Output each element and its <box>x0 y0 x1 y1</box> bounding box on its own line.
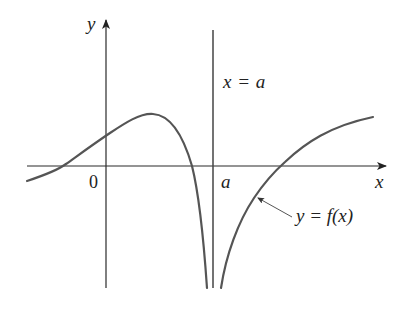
x-axis-label: x <box>375 172 383 191</box>
curve-right-branch <box>221 117 373 288</box>
a-tick-label: a <box>221 172 231 191</box>
diagram-canvas: y x 0 a x = a y = f(x) <box>0 0 407 311</box>
curve-label: y = f(x) <box>296 206 353 225</box>
graph-svg <box>0 0 407 311</box>
origin-label: 0 <box>89 173 98 191</box>
curve-left-branch <box>27 114 207 288</box>
y-axis-label: y <box>87 14 95 33</box>
curve-label-pointer-arrow <box>258 198 292 217</box>
asymptote-label: x = a <box>223 72 265 91</box>
